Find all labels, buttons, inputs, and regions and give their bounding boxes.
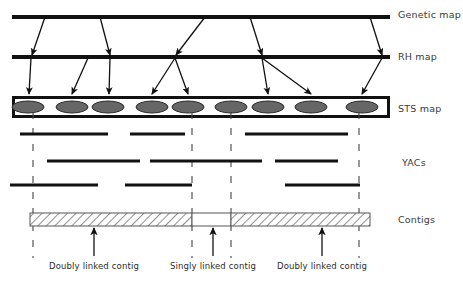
track-label-rh_map: RH map	[398, 51, 437, 62]
rh-to-sts-arrows	[29, 58, 382, 94]
rh-to-sts-arrow-5	[175, 58, 188, 94]
rh-to-sts-arrow-6	[262, 58, 268, 94]
contig-segment-doubly-linked-right	[231, 213, 370, 226]
contig-callout-arrows	[94, 228, 322, 256]
track-label-sts_map: STS map	[398, 103, 441, 114]
genetic-to-rh-arrow-5	[370, 17, 382, 55]
contig-caption-singly: Singly linked contig	[153, 261, 273, 271]
rh-to-sts-arrow-4	[152, 58, 175, 94]
sts-marker-6	[215, 101, 247, 113]
genetic-to-rh-arrow-1	[32, 17, 45, 55]
rh-to-sts-arrow-7	[262, 58, 311, 94]
contig-caption-doubly-right: Doubly linked contig	[262, 261, 382, 271]
contig-track	[30, 213, 370, 226]
contig-segment-doubly-linked-left	[30, 213, 192, 226]
sts-marker-5	[172, 101, 204, 113]
yac-clone-bars	[10, 134, 360, 185]
genetic-to-rh-arrow-4	[250, 17, 262, 55]
sts-marker-4	[136, 101, 168, 113]
genetic-to-rh-arrow-3	[176, 17, 205, 55]
genetic-to-rh-arrow-2	[100, 17, 110, 55]
sts-marker-1	[12, 101, 44, 113]
sts-marker-2	[56, 101, 88, 113]
track-label-contigs: Contigs	[398, 214, 435, 225]
sts-marker-ellipses	[12, 101, 378, 113]
sts-marker-7	[252, 101, 284, 113]
sts-marker-8	[295, 101, 327, 113]
rh-to-sts-arrow-8	[362, 58, 382, 94]
contig-segment-singly-linked-gap	[192, 213, 231, 226]
genetic-to-rh-arrows	[32, 17, 382, 55]
genome-mapping-diagram: Genetic mapRH mapSTS mapYACsContigs Doub…	[0, 0, 463, 284]
rh-to-sts-arrow-3	[109, 58, 110, 94]
sts-marker-9	[346, 101, 378, 113]
sts-marker-3	[92, 101, 124, 113]
rh-to-sts-arrow-2	[72, 58, 88, 94]
rh-to-sts-arrow-1	[29, 58, 31, 94]
track-label-yacs: YACs	[402, 157, 426, 168]
track-label-genetic_map: Genetic map	[398, 9, 461, 20]
contig-caption-doubly-left: Doubly linked contig	[34, 261, 154, 271]
diagram-canvas	[0, 0, 463, 284]
